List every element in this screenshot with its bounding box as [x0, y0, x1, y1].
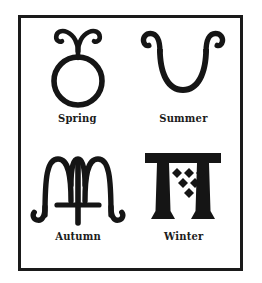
- winter-glyph: [131, 144, 237, 226]
- symbol-cell-summer: Summer: [131, 24, 237, 144]
- symbol-label-winter: Winter: [164, 230, 203, 242]
- autumn-glyph: [25, 144, 131, 226]
- symbol-label-spring: Spring: [58, 112, 97, 124]
- symbol-cell-winter: Winter: [131, 144, 237, 264]
- spring-glyph: [25, 24, 131, 110]
- u-shape-with-curled-ends-icon: [137, 25, 229, 109]
- m-shape-with-cross-tail-icon: [30, 145, 126, 225]
- symbol-label-summer: Summer: [159, 112, 207, 124]
- double-pillar-with-six-diamonds-icon: [137, 145, 229, 225]
- symbol-grid: Spring Summer: [21, 18, 240, 268]
- plate-border: Spring Summer: [18, 15, 243, 271]
- seasons-symbol-plate: Spring Summer: [0, 0, 262, 283]
- symbol-cell-spring: Spring: [25, 24, 131, 144]
- circle-with-two-curled-horns-icon: [35, 25, 121, 109]
- symbol-label-autumn: Autumn: [55, 230, 101, 242]
- summer-glyph: [131, 24, 237, 110]
- symbol-cell-autumn: Autumn: [25, 144, 131, 264]
